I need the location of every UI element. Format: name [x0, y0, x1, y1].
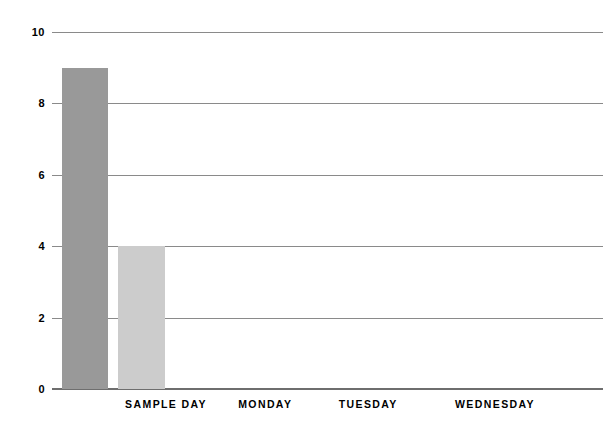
y-tick-label-6: 6 — [0, 170, 45, 181]
x-category-label-tuesday: TUESDAY — [339, 398, 398, 411]
bar-sample-day-series-1 — [62, 68, 107, 389]
y-tick-label-2: 2 — [0, 313, 45, 324]
x-category-label-wednesday: WEDNESDAY — [455, 398, 535, 411]
bar-chart: 10 8 6 4 2 0 SAMPLE DAY MONDAY TUESDAY W… — [0, 0, 609, 429]
y-axis: 10 8 6 4 2 0 — [0, 0, 45, 429]
x-axis: SAMPLE DAY MONDAY TUESDAY WEDNESDAY — [52, 398, 603, 418]
y-tick-label-4: 4 — [0, 241, 45, 252]
x-category-label-monday: MONDAY — [238, 398, 292, 411]
y-tick-label-0: 0 — [0, 384, 45, 395]
y-tick-label-10: 10 — [0, 27, 45, 38]
y-tick-label-8: 8 — [0, 98, 45, 109]
x-category-label-sample-day: SAMPLE DAY — [125, 398, 207, 411]
gridline-6 — [52, 175, 603, 176]
bar-sample-day-series-2 — [118, 246, 165, 389]
gridline-8 — [52, 103, 603, 104]
gridline-10 — [52, 32, 603, 33]
plot-area — [52, 32, 603, 389]
